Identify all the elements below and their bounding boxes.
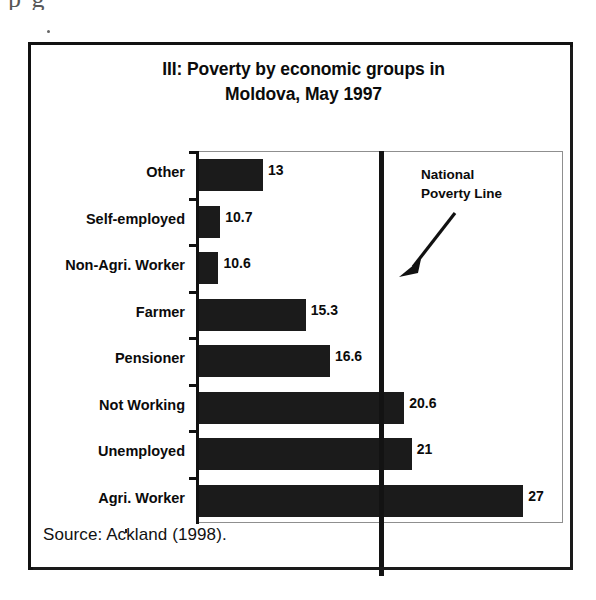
bar-value-label: 15.3 <box>311 303 338 317</box>
category-label: Other <box>146 164 185 180</box>
bar <box>198 299 306 331</box>
category-label: Farmer <box>136 304 185 320</box>
figure-frame: III: Poverty by economic groups in Moldo… <box>28 42 573 570</box>
category-label: Self-employed <box>86 211 185 227</box>
bar-value-label: 10.7 <box>225 210 252 224</box>
chart-title-line-2: Moldova, May 1997 <box>31 82 576 107</box>
category-label: Agri. Worker <box>98 490 185 506</box>
y-axis-spine <box>196 151 199 524</box>
annotation-arrow-icon <box>391 205 463 283</box>
bar-value-label: 20.6 <box>409 396 436 410</box>
national-poverty-line <box>379 151 384 576</box>
bar <box>198 392 404 424</box>
annotation-line-1: National <box>421 165 502 184</box>
bar-value-label: 10.6 <box>223 256 250 270</box>
bar-value-label: 16.6 <box>335 349 362 363</box>
source-note: Source: Ackland (1998). <box>43 525 227 545</box>
page-title: III: Poverty by economic groups in Moldo… <box>31 57 576 107</box>
bar-value-label: 21 <box>417 442 433 456</box>
bar <box>198 206 220 238</box>
bar <box>198 159 263 191</box>
page-bleed-text: p g <box>0 0 596 10</box>
annotation-line-2: Poverty Line <box>421 184 502 203</box>
bar-value-label: 27 <box>528 489 544 503</box>
category-label: Non-Agri. Worker <box>65 257 185 273</box>
bar <box>198 345 330 377</box>
scan-artifact-dot-source <box>125 529 127 533</box>
category-label: Pensioner <box>115 350 185 366</box>
bar <box>198 485 523 517</box>
chart-title-line-1: III: Poverty by economic groups in <box>31 57 576 82</box>
category-label: Unemployed <box>98 443 185 459</box>
scan-artifact-dot <box>47 30 50 33</box>
bar-value-label: 13 <box>268 163 284 177</box>
category-label: Not Working <box>99 397 185 413</box>
bar <box>198 252 218 284</box>
poverty-line-annotation: National Poverty Line <box>421 165 502 203</box>
